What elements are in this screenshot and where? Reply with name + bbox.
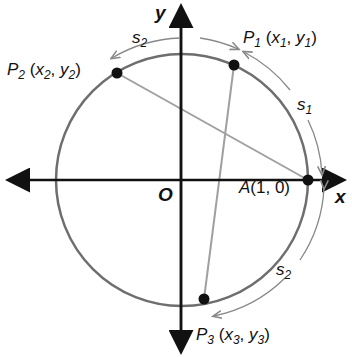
arc-s2-bottom [300,188,324,260]
point-a [303,175,314,186]
point-p2-label: P2 (x2, y2) [7,60,81,82]
point-p3 [199,294,210,305]
point-p1-label: P1 (x1, y1) [243,28,317,50]
point-p1 [229,60,240,71]
arc-label-s1: s1 [297,95,312,117]
chord-p1-p3 [204,65,234,299]
point-a-label: A(1, 0) [239,178,290,198]
x-axis-label: x [335,186,346,208]
unit-circle-diagram [0,0,352,357]
arc-label-s2-top: s2 [132,28,147,50]
point-p3-label: P3 (x3, y3) [196,325,270,347]
origin-label: O [158,184,173,206]
arc-s1 [244,52,290,90]
arc-label-s2-bottom: s2 [276,260,291,282]
y-axis-label: y [155,2,166,24]
chord-p2-a [117,73,308,180]
point-p2 [112,68,123,79]
